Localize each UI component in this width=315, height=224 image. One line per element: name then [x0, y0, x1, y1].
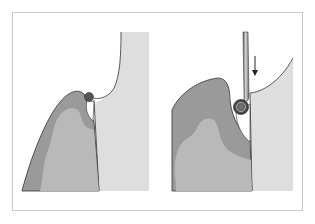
- calculus-deposit-right: [234, 100, 249, 115]
- instrument-shaft: [243, 32, 249, 102]
- calculus-deposit-left: [85, 93, 94, 102]
- diagram-canvas: [0, 0, 315, 224]
- left-panel: [22, 32, 149, 191]
- tooth-right: [250, 58, 293, 191]
- tooth-left: [94, 32, 149, 191]
- right-panel: [172, 32, 293, 191]
- arrow-down-icon: [252, 56, 258, 76]
